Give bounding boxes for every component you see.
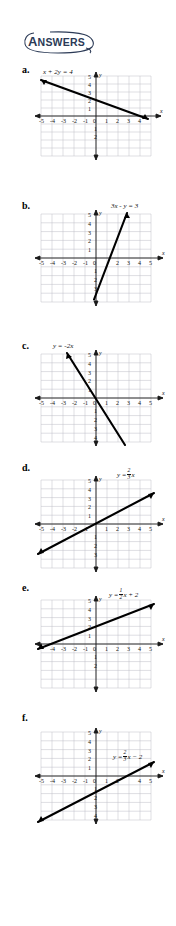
svg-text:5: 5	[88, 212, 91, 218]
svg-text:1: 1	[88, 633, 91, 639]
svg-text:3: 3	[127, 118, 130, 124]
svg-text:-4: -4	[50, 778, 55, 784]
svg-text:-4: -4	[50, 646, 55, 652]
svg-text:-3: -3	[61, 400, 66, 406]
svg-text:1: 1	[94, 408, 97, 414]
svg-text:3: 3	[127, 260, 130, 266]
svg-text:3: 3	[88, 90, 91, 96]
svg-text:2: 2	[94, 795, 97, 801]
svg-text:-4: -4	[50, 118, 55, 124]
svg-text:-3: -3	[61, 646, 66, 652]
equation-text-c: y = -2x	[53, 342, 73, 350]
svg-text:2: 2	[88, 504, 91, 510]
svg-text:-5: -5	[39, 400, 44, 406]
answers-title-rest: NSWERS	[38, 36, 85, 48]
svg-text:4: 4	[138, 118, 141, 124]
graph-letter-d: d.	[22, 462, 30, 473]
svg-text:y: y	[98, 72, 102, 78]
svg-text:-2: -2	[72, 778, 77, 784]
svg-text:1: 1	[105, 400, 108, 406]
svg-text:5: 5	[88, 352, 91, 358]
graph-block-d: d.	[0, 462, 176, 572]
graph-letter-c: c.	[22, 340, 29, 351]
svg-text:x: x	[161, 516, 165, 522]
svg-text:1: 1	[94, 268, 97, 274]
graph-plot-e: -4-3 -2-10 123 45 54 32 1 12 x y	[33, 594, 173, 698]
equation-lhs-d: y	[117, 471, 120, 479]
svg-text:-3: -3	[61, 118, 66, 124]
equation-label-b: 3x - y = 3	[111, 202, 138, 210]
equation-var-d: x	[131, 471, 134, 479]
axes	[35, 596, 163, 692]
svg-text:2: 2	[94, 277, 97, 283]
svg-text:3: 3	[88, 230, 91, 236]
svg-text:4: 4	[94, 813, 97, 819]
graph-letter-a: a.	[22, 64, 30, 75]
svg-text:2: 2	[116, 260, 119, 266]
graph-letter-f: f.	[22, 712, 28, 723]
graph-plot-d: -5-4-3 -2-1 123 45 54 32 1 123 x y	[33, 474, 173, 574]
tick-labels: -5-4-3 -2-10 12 45 54 32 1 1234 x y	[39, 728, 165, 819]
equation-rel-e: =	[114, 591, 119, 599]
svg-text:-2: -2	[72, 400, 77, 406]
svg-text:-5: -5	[39, 778, 44, 784]
svg-text:4: 4	[138, 526, 141, 532]
graph-letter-e: e.	[22, 582, 29, 593]
svg-text:5: 5	[88, 598, 91, 604]
equation-text-b: 3x - y = 3	[111, 202, 138, 210]
graph-block-e: e.	[0, 582, 176, 700]
svg-text:1: 1	[88, 765, 91, 771]
equation-label-f: y =23x − 2	[113, 750, 142, 762]
equation-var-e: x	[123, 591, 126, 599]
svg-text:y: y	[98, 350, 102, 356]
graph-plot-b: -5-4-3 -2-10 23 45 54 32 1 123 x y 3x -	[33, 206, 173, 310]
svg-text:2: 2	[94, 417, 97, 423]
svg-text:2: 2	[94, 134, 97, 140]
svg-text:1: 1	[105, 526, 108, 532]
svg-text:3: 3	[127, 400, 130, 406]
equation-label-e: y =12x + 2	[109, 588, 138, 600]
svg-text:x: x	[159, 108, 163, 114]
svg-text:3: 3	[88, 496, 91, 502]
svg-text:1: 1	[94, 126, 97, 132]
svg-text:x: x	[161, 390, 165, 396]
equation-label-c: y = -2x	[53, 342, 73, 350]
svg-text:-2: -2	[72, 118, 77, 124]
svg-text:0: 0	[93, 118, 96, 124]
svg-text:0: 0	[93, 646, 96, 652]
svg-text:-4: -4	[50, 260, 55, 266]
svg-text:x: x	[161, 636, 165, 642]
svg-text:-2: -2	[72, 260, 77, 266]
svg-text:3: 3	[94, 804, 97, 810]
svg-text:2: 2	[116, 118, 119, 124]
graph-block-a: a.	[0, 64, 176, 164]
svg-text:5: 5	[149, 646, 152, 652]
svg-text:5: 5	[88, 74, 91, 80]
svg-text:3: 3	[88, 370, 91, 376]
svg-text:x: x	[161, 768, 165, 774]
svg-text:5: 5	[88, 478, 91, 484]
answers-page: ANSWERS a.	[0, 0, 176, 926]
svg-text:2: 2	[88, 238, 91, 244]
line-graph-a	[41, 80, 148, 119]
svg-text:1: 1	[94, 534, 97, 540]
svg-text:1: 1	[105, 646, 108, 652]
svg-text:-5: -5	[39, 118, 44, 124]
svg-text:4: 4	[138, 646, 141, 652]
equation-lhs-f: y	[113, 753, 116, 761]
graph-plot-f: -5-4-3 -2-10 12 45 54 32 1 1234 x y	[33, 726, 173, 834]
equation-lhs-e: y	[109, 591, 112, 599]
equation-rel-d: =	[122, 471, 127, 479]
svg-text:4: 4	[88, 82, 91, 88]
svg-text:4: 4	[88, 739, 91, 745]
svg-text:4: 4	[88, 487, 91, 493]
answers-title-initial: A	[28, 34, 38, 49]
svg-text:1: 1	[105, 118, 108, 124]
svg-text:4: 4	[94, 435, 97, 441]
equation-tail-e: + 2	[128, 591, 138, 599]
equation-var-f: x	[127, 753, 130, 761]
svg-text:4: 4	[138, 400, 141, 406]
svg-text:x: x	[161, 250, 165, 256]
svg-text:-1: -1	[83, 400, 88, 406]
svg-text:0: 0	[93, 400, 96, 406]
